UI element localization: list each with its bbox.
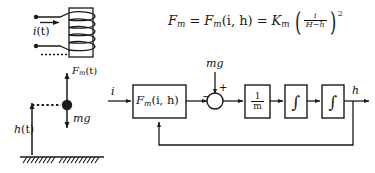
- force-law-equation: Fm = Fm(i, h) = Km ( i H−h ) 2: [168, 12, 343, 30]
- mass-block-label: 1 m: [245, 85, 270, 118]
- free-body-height-label: h(t): [14, 124, 34, 135]
- free-body-weight-label: mg: [73, 113, 90, 124]
- equation-mid: Fm(i, h): [204, 13, 252, 29]
- coil-current-label: i(t): [33, 26, 50, 37]
- ground-hatching: [23, 157, 99, 163]
- figure-canvas: i(t) Fm(t) mg h(t) i mg h − + Fm(i, h) 1…: [0, 0, 375, 173]
- equation-fraction-denominator: H−h: [304, 20, 327, 29]
- equation-fraction-numerator: i: [312, 12, 319, 20]
- block-disturbance-label: mg: [206, 58, 223, 69]
- equation-gain: Km: [272, 13, 290, 29]
- mass-block-denominator: m: [251, 101, 264, 111]
- coil-terminal-bottom: [34, 44, 38, 48]
- integrator-2-icon: ∫: [322, 85, 344, 118]
- force-block-label: Fm(i, h): [136, 95, 179, 108]
- equation-lhs: Fm: [168, 13, 185, 29]
- integrator-1-icon: ∫: [285, 85, 307, 118]
- block-output-label: h: [352, 85, 359, 96]
- summing-junction-minus-sign: −: [202, 92, 210, 102]
- levitating-ball: [62, 100, 72, 110]
- coil-terminal-top: [34, 15, 38, 19]
- free-body-force-up-label: Fm(t): [72, 66, 97, 77]
- mass-block-numerator: 1: [253, 92, 263, 101]
- block-input-label: i: [111, 86, 115, 97]
- equation-exponent: 2: [338, 9, 343, 18]
- equation-equals-2: =: [257, 13, 268, 28]
- free-body-diagram: [20, 73, 104, 163]
- summing-junction-plus-sign: +: [219, 83, 227, 93]
- equation-equals-1: =: [189, 13, 200, 28]
